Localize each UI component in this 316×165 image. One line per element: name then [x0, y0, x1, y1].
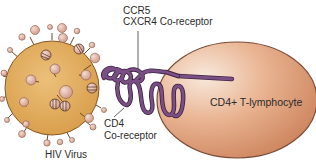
hiv-virus-label: HIV Virus — [45, 149, 87, 160]
hiv-virus-particle — [0, 24, 107, 147]
cxcr4-coreceptor-label: CXCR4 Co-receptor — [123, 16, 212, 27]
hiv-binding-diagram: CCR5 CXCR4 Co-receptor CD4 Co-receptor H… — [0, 0, 316, 165]
cd4-label: CD4 — [104, 118, 124, 129]
cd4-coreceptor-label: Co-receptor — [104, 130, 157, 141]
ccr5-label: CCR5 — [123, 5, 150, 16]
t-lymphocyte-label: CD4+ T-lymphocyte — [210, 97, 302, 108]
